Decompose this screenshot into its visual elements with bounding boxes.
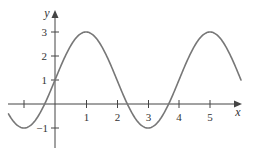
x-axis-label: x: [234, 105, 241, 119]
y-axis-arrow-icon: [52, 10, 59, 18]
x-axis: 1 2 3 4 5 x: [8, 100, 242, 123]
y-tick-label: 3: [42, 26, 48, 38]
x-tick-label: 2: [115, 111, 121, 123]
x-tick-label: 1: [84, 111, 90, 123]
x-tick-label: 4: [176, 111, 182, 123]
y-tick-label: 2: [42, 50, 48, 62]
function-plot: 1 2 3 4 5 x 3 2 1 −1 y: [0, 0, 258, 159]
y-axis-label: y: [43, 6, 50, 20]
y-tick-label: 1: [42, 74, 48, 86]
x-tick-label: 3: [146, 111, 152, 123]
x-tick-label: 5: [207, 111, 213, 123]
y-tick-label: −1: [36, 122, 48, 134]
